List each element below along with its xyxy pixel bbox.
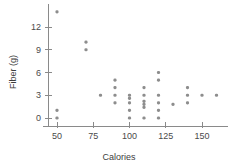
x-tick-label: 125 bbox=[158, 131, 173, 141]
x-axis-title: Calories bbox=[102, 152, 136, 162]
data-point bbox=[157, 94, 160, 97]
y-tick-label: 9 bbox=[36, 45, 41, 55]
data-point bbox=[142, 103, 145, 106]
data-point bbox=[142, 86, 145, 89]
y-axis-title: Fiber (g) bbox=[8, 55, 18, 89]
data-point bbox=[157, 78, 160, 81]
scatter-plot-figure: 036912 5075100125150 Calories Fiber (g) bbox=[0, 0, 237, 164]
x-axis: 5075100125150 bbox=[43, 122, 229, 141]
data-point bbox=[215, 94, 218, 97]
data-point bbox=[142, 106, 145, 109]
data-point bbox=[99, 94, 102, 97]
data-point bbox=[157, 101, 160, 104]
data-point bbox=[186, 86, 189, 89]
data-point bbox=[186, 101, 189, 104]
data-point bbox=[171, 103, 174, 106]
x-tick-label: 150 bbox=[194, 131, 209, 141]
x-tick-label: 50 bbox=[52, 131, 62, 141]
data-points-layer bbox=[55, 10, 218, 119]
y-tick-label: 0 bbox=[36, 113, 41, 123]
data-point bbox=[200, 94, 203, 97]
plot-canvas: 036912 5075100125150 Calories Fiber (g) bbox=[0, 0, 237, 164]
data-point bbox=[142, 116, 145, 119]
data-point bbox=[128, 101, 131, 104]
data-point bbox=[186, 94, 189, 97]
data-point bbox=[128, 97, 131, 100]
data-point bbox=[128, 116, 131, 119]
x-tick-label: 75 bbox=[88, 131, 98, 141]
data-point bbox=[55, 109, 58, 112]
data-point bbox=[84, 48, 87, 51]
data-point bbox=[113, 78, 116, 81]
y-tick-label: 6 bbox=[36, 68, 41, 78]
data-point bbox=[128, 94, 131, 97]
data-point bbox=[113, 94, 116, 97]
data-point bbox=[55, 10, 58, 13]
data-point bbox=[84, 41, 87, 44]
data-point bbox=[142, 100, 145, 103]
data-point bbox=[55, 116, 58, 119]
y-axis: 036912 bbox=[31, 4, 52, 127]
y-tick-label: 12 bbox=[31, 22, 41, 32]
data-point bbox=[128, 109, 131, 112]
data-point bbox=[157, 109, 160, 112]
data-point bbox=[113, 86, 116, 89]
y-tick-label: 3 bbox=[36, 90, 41, 100]
data-point bbox=[157, 116, 160, 119]
data-point bbox=[142, 94, 145, 97]
data-point bbox=[113, 101, 116, 104]
x-tick-label: 100 bbox=[122, 131, 137, 141]
data-point bbox=[157, 71, 160, 74]
